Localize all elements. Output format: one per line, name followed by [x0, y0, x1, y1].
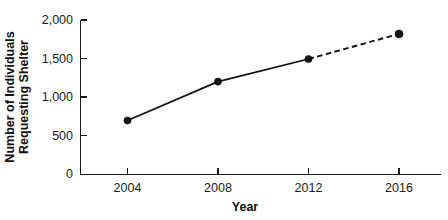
y-axis-title: Number of Individuals Requesting Shelter: [3, 31, 31, 162]
y-tick-marks: [81, 20, 88, 136]
y-tick-label-500: 500: [52, 129, 73, 143]
series-line-projected: [309, 34, 400, 59]
y-axis-title-line1: Number of Individuals: [3, 31, 17, 162]
data-point-2016: [395, 30, 403, 38]
y-tick-label-1500: 1,500: [42, 52, 73, 66]
x-axis-title: Year: [232, 200, 259, 214]
x-tick-label-2008: 2008: [204, 181, 232, 195]
data-point-2004: [124, 117, 131, 124]
x-tick-marks: [128, 168, 400, 175]
x-tick-label-2016: 2016: [385, 181, 413, 195]
y-tick-label-1000: 1,000: [42, 90, 73, 104]
chart-canvas: Number of Individuals Requesting Shelter…: [0, 0, 448, 220]
data-point-2008: [214, 78, 221, 85]
x-tick-label-2004: 2004: [114, 181, 142, 195]
axis-lines: [81, 20, 442, 175]
y-tick-label-2000: 2,000: [42, 13, 73, 27]
line-chart: Number of Individuals Requesting Shelter…: [0, 0, 448, 220]
data-point-2012: [305, 55, 312, 62]
y-axis-title-line2: Requesting Shelter: [17, 40, 31, 154]
x-tick-label-2012: 2012: [295, 181, 323, 195]
y-tick-label-0: 0: [66, 167, 73, 181]
series-line-observed: [128, 59, 309, 121]
